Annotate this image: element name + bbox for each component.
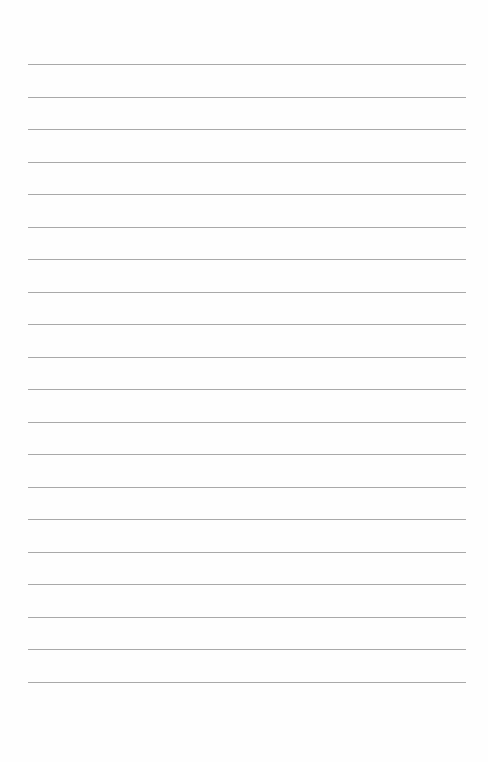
ruled-line — [28, 519, 466, 520]
lined-page — [0, 0, 488, 762]
ruled-line — [28, 422, 466, 423]
ruled-line — [28, 584, 466, 585]
ruled-line — [28, 162, 466, 163]
ruled-line — [28, 389, 466, 390]
ruled-line — [28, 454, 466, 455]
ruled-line — [28, 259, 466, 260]
ruled-line — [28, 227, 466, 228]
ruled-line — [28, 129, 466, 130]
ruled-line — [28, 97, 466, 98]
ruled-line — [28, 682, 466, 683]
ruled-line — [28, 552, 466, 553]
ruled-line — [28, 357, 466, 358]
ruled-line — [28, 194, 466, 195]
ruled-line — [28, 324, 466, 325]
ruled-line — [28, 649, 466, 650]
ruled-line — [28, 64, 466, 65]
ruled-line — [28, 617, 466, 618]
ruled-line — [28, 487, 466, 488]
ruled-line — [28, 292, 466, 293]
